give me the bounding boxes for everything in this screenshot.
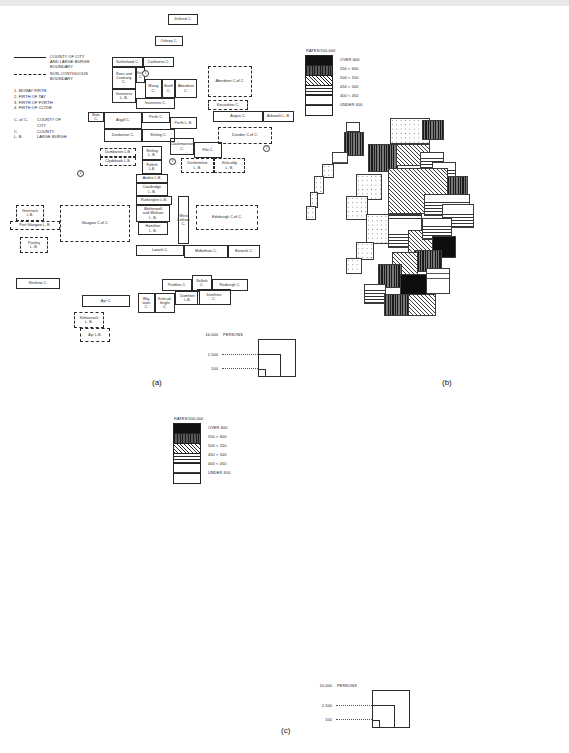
- map-region: [364, 284, 386, 304]
- persons-c-box-100: [372, 720, 380, 728]
- county-box: Angus C.: [213, 111, 263, 122]
- county-label: Glasgow C.of C.: [81, 221, 108, 225]
- swatch-500-550: [306, 76, 332, 86]
- rates-swatches-b: [305, 55, 333, 116]
- county-label: Angus C.: [230, 114, 245, 118]
- county-box: West Lothian C.: [178, 196, 189, 244]
- county-box: Zetland C.: [168, 14, 198, 25]
- county-label: Kirkcaldy L. B.: [222, 161, 237, 169]
- county-box: Rutherglen L.B.: [136, 196, 172, 205]
- county-label: Banff C.: [164, 84, 173, 92]
- county-box: Sutherland C.: [112, 57, 143, 67]
- county-box: Falkirk L.B.: [142, 160, 162, 174]
- county-box: Banff C.: [162, 79, 175, 98]
- county-label: Aberdeen C.: [178, 84, 194, 92]
- county-box: Ross and Cromarty C.: [112, 67, 136, 89]
- map-region: [426, 268, 450, 294]
- rates-legend-c: RATES/100,000 OVER 600 550 < 600 500 < 5…: [173, 416, 230, 484]
- county-box: Caithness C.: [143, 57, 174, 67]
- swatch-under-400: [306, 106, 332, 115]
- map-region: [346, 258, 362, 274]
- county-box: Perth C.: [142, 112, 170, 123]
- rates-labels-b: OVER 600 550 < 600 500 < 550 450 < 500 4…: [340, 55, 362, 116]
- county-box: Ayr C.: [82, 295, 130, 307]
- county-label: Inverness L. B.: [116, 92, 132, 100]
- county-box: Dunbarton C.: [104, 129, 142, 142]
- county-box: Edinburgh C.of C.: [196, 205, 258, 230]
- persons-label-2500: 2,500: [188, 352, 218, 357]
- county-label: Argyll C.: [116, 118, 130, 122]
- rates-c-label-550-600: 550 < 600: [208, 432, 230, 441]
- county-label: Dunfermline L. B.: [187, 161, 207, 169]
- county-box: Orkney C.: [155, 36, 183, 46]
- swatch-450-500: [306, 86, 332, 96]
- panel-a-county-key-map: COUNTY OF CITY AND LARGE BURGH BOUNDARY …: [0, 0, 300, 395]
- county-box: Moray C.: [145, 79, 162, 98]
- county-label: Dunbarton C.: [112, 133, 134, 137]
- rates-label-over-600: OVER 600: [340, 55, 362, 64]
- county-label: Edinburgh C.of C.: [212, 215, 242, 219]
- county-label: Dumbarton L.B.: [105, 150, 131, 154]
- county-label: Peebles C.: [168, 283, 186, 287]
- county-box: Wig- town C.: [138, 293, 155, 313]
- county-box: Aberdeen C.: [175, 79, 197, 98]
- rates-labels-c: OVER 600 550 < 600 500 < 550 450 < 500 4…: [208, 423, 230, 484]
- firth-marker: 3: [169, 158, 176, 165]
- county-label: Port Glasgow L. B.: [19, 223, 50, 227]
- county-box: Dunfermline L. B.: [181, 158, 214, 173]
- county-label: Zetland C.: [174, 17, 191, 21]
- rates-c-label-450-500: 450 < 500: [208, 450, 230, 459]
- county-box: Airdrie L.B.: [136, 174, 168, 183]
- swatch-c-500-550: [174, 444, 200, 454]
- county-label: Stirling L. B.: [146, 149, 158, 157]
- map-region: [346, 196, 368, 220]
- county-box: Kilmarnock L. B.: [74, 312, 104, 328]
- county-box: Midlothian C.: [184, 245, 228, 258]
- map-region: [384, 294, 410, 316]
- persons-c-label-100: 100: [302, 717, 332, 722]
- persons-c-label-2500: 2,500: [302, 703, 332, 708]
- persons-c-leader-100: [336, 719, 372, 720]
- swatch-c-over-600: [174, 424, 200, 434]
- county-label: Rutherglen L.B.: [141, 198, 167, 202]
- county-label: Dumfries C.: [207, 293, 222, 301]
- county-box: Inverness L. B.: [112, 89, 136, 103]
- swatch-over-600: [306, 56, 332, 66]
- rates-label-400-450: 400 < 450: [340, 91, 362, 100]
- map-region: [306, 206, 316, 220]
- rates-legend-b: RATES/100,000 OVER 600 550 < 600 500 < 5…: [305, 48, 362, 116]
- map-region: [422, 120, 444, 140]
- persons-label-10000: 10,000: [188, 332, 218, 337]
- rates-c-label-under-400: UNDER 400: [208, 468, 230, 477]
- county-label: Kilmarnock L. B.: [80, 316, 99, 324]
- firth-marker: 1: [142, 70, 149, 77]
- persons-label-100: 100: [188, 366, 218, 371]
- persons-scale-a: 10,000 PERSONS 2,500 100: [196, 332, 296, 380]
- panel-b-caption: (b): [442, 378, 452, 387]
- county-box: Clydebank L.B.: [100, 157, 136, 166]
- swatch-550-600: [306, 66, 332, 76]
- panel-b-choropleth-map: RATES/100,000 OVER 600 550 < 600 500 < 5…: [285, 0, 569, 395]
- county-box: Perth L. B.: [170, 117, 197, 129]
- county-label: Renfrew C.: [29, 281, 48, 285]
- county-label: Midlothian C.: [195, 249, 217, 253]
- map-region: [332, 152, 348, 164]
- persons-leader-100: [222, 368, 258, 369]
- county-box: Aberdeen C.of C.: [208, 66, 252, 97]
- county-box: Kincardine C.: [208, 100, 248, 110]
- county-label: Dumfries L.B.: [180, 294, 195, 302]
- county-label: Ayr C.: [101, 299, 111, 303]
- county-label: Perth L. B.: [175, 121, 193, 125]
- rates-title-c: RATES/100,000: [174, 416, 230, 421]
- swatch-c-under-400: [174, 474, 200, 483]
- county-box: Clackmannan C.: [170, 138, 194, 155]
- persons-c-label-10000: 10,000: [302, 683, 332, 688]
- county-box: Fife C.: [194, 142, 222, 158]
- county-box: Paisley L. B.: [20, 237, 48, 253]
- panel-a-caption: (a): [152, 378, 162, 387]
- county-label: Ross and Cromarty C.: [116, 72, 132, 84]
- county-label: Moray C.: [148, 84, 158, 92]
- county-label: Aberdeen C.of C.: [216, 79, 245, 83]
- county-box: Hamilton L. B.: [138, 222, 168, 235]
- county-label: Dundee C.of C.: [232, 133, 258, 137]
